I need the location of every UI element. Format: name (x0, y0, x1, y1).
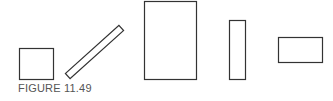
square-shape (20, 49, 54, 80)
horizontal-rectangle-shape (279, 38, 323, 63)
narrow-vertical-rectangle-shape (230, 21, 246, 80)
figure-caption: FIGURE 11.49 (18, 82, 92, 94)
tall-rectangle-shape (145, 2, 197, 80)
diagonal-rectangle-shape (65, 25, 123, 78)
